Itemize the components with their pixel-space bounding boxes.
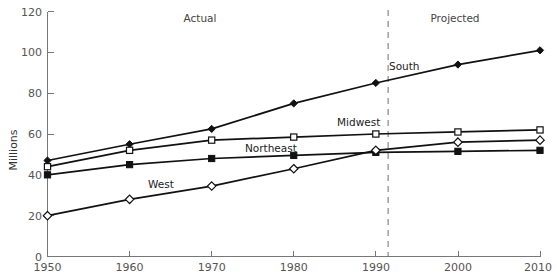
y-axis-title: Millions: [7, 129, 20, 170]
x-tick-label: 2010: [524, 261, 552, 274]
data-series-layer: [43, 47, 544, 220]
data-point: [208, 125, 215, 132]
data-point: [454, 138, 462, 146]
x-tick-label: 2000: [444, 261, 472, 274]
y-tick-label: 40: [28, 169, 42, 182]
x-tick-marks: [48, 251, 541, 257]
y-tick-label: 100: [21, 46, 42, 59]
data-point: [43, 211, 51, 219]
x-tick-label: 1990: [362, 261, 390, 274]
data-point: [454, 61, 461, 68]
data-point: [537, 147, 543, 153]
chart-container: 0 20 40 60 80 100 120 Millions 1950 1960…: [0, 0, 557, 278]
x-tick-label: 1980: [280, 261, 308, 274]
x-tick-label: 1960: [116, 261, 144, 274]
data-point: [209, 155, 215, 161]
y-tick-label: 60: [28, 128, 42, 141]
data-point: [290, 165, 298, 173]
data-point: [44, 164, 50, 170]
line-chart-svg: 0 20 40 60 80 100 120 Millions 1950 1960…: [0, 0, 557, 278]
x-tick-label: 1950: [34, 261, 62, 274]
data-point: [455, 148, 461, 154]
y-axis-tick-labels: 0 20 40 60 80 100 120: [21, 6, 42, 264]
y-tick-label: 20: [28, 210, 42, 223]
data-point: [209, 137, 215, 143]
period-label-projected: Projected: [430, 12, 479, 24]
period-label-actual: Actual: [184, 12, 217, 24]
y-tick-label: 80: [28, 87, 42, 100]
data-point: [372, 79, 379, 86]
data-point: [537, 127, 543, 133]
data-point: [455, 129, 461, 135]
series-label-northeast: Northeast: [245, 142, 297, 154]
series-label-midwest: Midwest: [337, 116, 380, 128]
data-point: [126, 162, 132, 168]
data-point: [207, 182, 215, 190]
data-point: [290, 100, 297, 107]
data-point: [44, 172, 50, 178]
data-point: [291, 134, 297, 140]
data-point: [373, 131, 379, 137]
series-label-west: West: [148, 178, 174, 190]
data-point: [536, 136, 544, 144]
x-tick-label: 1970: [198, 261, 226, 274]
series-label-south: South: [389, 60, 420, 72]
data-point: [126, 147, 132, 153]
x-axis-tick-labels: 1950 1960 1970 1980 1990 2000 2010: [34, 261, 553, 274]
y-tick-label: 120: [21, 6, 42, 19]
data-point: [536, 47, 543, 54]
data-point: [125, 195, 133, 203]
